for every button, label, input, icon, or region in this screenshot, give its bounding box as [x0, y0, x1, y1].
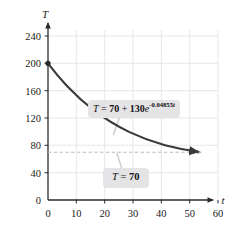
x-tick-label-60: 60 — [213, 208, 224, 219]
y-tick-labels: 0 40 80 120 160 200 240 — [25, 31, 41, 206]
y-tick-label-40: 40 — [31, 168, 42, 179]
callout-leaders — [114, 115, 122, 168]
equation-exponent-value: -0.04855 — [149, 101, 173, 108]
x-tick-label-0: 0 — [45, 208, 50, 219]
asymptote-callout: T = 70 — [103, 168, 149, 188]
y-tick-label-160: 160 — [25, 86, 41, 97]
x-tick-label-30: 30 — [128, 208, 139, 219]
x-tick-label-40: 40 — [156, 208, 167, 219]
leader-asymptote-to-line — [117, 154, 122, 168]
equation-callout: T = 70 + 130e-0.04855t — [88, 100, 180, 118]
x-axis-label: t — [221, 194, 225, 206]
y-tick-label-80: 80 — [31, 140, 42, 151]
start-point-marker — [45, 61, 50, 66]
x-tick-label-10: 10 — [71, 208, 82, 219]
x-tick-labels: 0 10 20 30 40 50 60 — [45, 208, 223, 219]
figure-container: 0 40 80 120 160 200 240 0 10 20 30 40 50… — [0, 0, 234, 240]
equation-coefficient: 130 — [130, 103, 145, 114]
equation-constant: 70 — [109, 103, 119, 114]
equation-exponent-variable: t — [173, 101, 175, 108]
temperature-decay-plot: 0 40 80 120 160 200 240 0 10 20 30 40 50… — [0, 0, 234, 240]
x-tick-label-20: 20 — [99, 208, 110, 219]
y-tick-label-200: 200 — [25, 58, 41, 69]
y-tick-label-0: 0 — [36, 195, 41, 206]
y-axis-label: T — [42, 8, 49, 20]
asymptote-value: 70 — [129, 171, 140, 182]
y-tick-label-240: 240 — [25, 31, 41, 42]
y-tick-label-120: 120 — [25, 113, 41, 124]
x-tick-label-50: 50 — [184, 208, 195, 219]
